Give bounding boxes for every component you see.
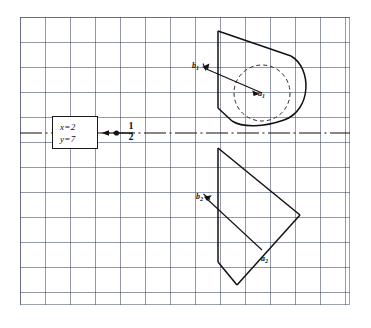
axis-point-marker (114, 130, 119, 135)
label-b2: b2 (196, 193, 203, 201)
lower-view-dimension-arrow (204, 194, 263, 250)
x-value-label: x=2 (60, 121, 97, 133)
axis-fraction-numerator: 1 (125, 120, 137, 131)
upper-view-outline (218, 31, 306, 126)
y-value-label: y=7 (60, 133, 97, 145)
drawing-canvas: x=2 y=7 1 2 b1 a1 b2 a2 (0, 0, 371, 328)
axis-fraction-mark: 1 2 (125, 120, 137, 142)
label-a2-subscript: 2 (265, 258, 268, 264)
label-b1: b1 (192, 62, 199, 70)
label-b2-subscript: 2 (200, 196, 203, 202)
axis-fraction-denominator: 2 (125, 131, 137, 142)
label-a1-subscript: 1 (262, 93, 265, 99)
technical-drawing (0, 0, 371, 328)
label-a1: a1 (258, 90, 265, 98)
coordinate-value-box: x=2 y=7 (52, 116, 98, 149)
upper-view-dimension-arrow (202, 64, 262, 96)
label-a2: a2 (261, 255, 268, 263)
lower-view-outline (218, 148, 300, 285)
label-b1-subscript: 1 (196, 65, 199, 71)
